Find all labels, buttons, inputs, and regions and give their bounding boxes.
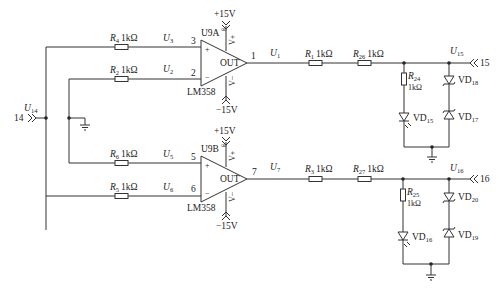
junction-dot bbox=[44, 116, 48, 120]
ground-icon bbox=[80, 125, 90, 130]
minus-sign: − bbox=[205, 73, 210, 82]
zener-vd17-icon bbox=[443, 109, 455, 119]
pin-1-label: 1 bbox=[251, 51, 256, 61]
resistor-r27 bbox=[358, 177, 371, 182]
minus-sign: − bbox=[205, 189, 210, 198]
supply-pos-label: +15V bbox=[214, 9, 236, 19]
part-number: LM358 bbox=[187, 87, 216, 97]
net-label-u14: U14 bbox=[24, 103, 38, 114]
resistor-r27-label: R271kΩ bbox=[352, 164, 384, 175]
resistor-r4 bbox=[115, 45, 128, 50]
resistor-r26 bbox=[358, 61, 371, 66]
opamp-u9a: + − OUT U9A ∞ LM358 +15V V+ −15V V− bbox=[187, 9, 247, 115]
opamp-u9b: + − OUT U9B ∞ LM358 +15V V+ −15V V− bbox=[187, 126, 247, 231]
circuit-schematic: 14 U14 R41kΩ U3 3 R21kΩ U2 2 + − OUT U9A… bbox=[0, 0, 499, 296]
part-number: LM358 bbox=[187, 203, 216, 213]
led-vd15-icon bbox=[399, 113, 411, 128]
resistor-r26-label: R261kΩ bbox=[352, 49, 384, 60]
led-vd16-icon bbox=[398, 232, 410, 247]
output-pin-15-label: 15 bbox=[480, 58, 490, 68]
resistor-r1 bbox=[309, 61, 322, 66]
net-label-u2: U2 bbox=[163, 64, 173, 75]
plus-sign: + bbox=[205, 161, 210, 170]
vminus-label: V− bbox=[228, 191, 237, 202]
resistor-r1-label: R11kΩ bbox=[304, 49, 333, 60]
vplus-label: V+ bbox=[228, 34, 237, 45]
pin-5-label: 5 bbox=[191, 152, 196, 162]
ground-icon bbox=[426, 275, 436, 280]
vminus-label: V− bbox=[228, 75, 237, 86]
output-connector-arrow-icon bbox=[470, 59, 478, 67]
connector-arrow-icon bbox=[28, 114, 36, 122]
pin-2-label: 2 bbox=[191, 68, 196, 78]
resistor-r3 bbox=[309, 177, 322, 182]
opamp-id: U9A bbox=[201, 28, 220, 38]
plus-sign: + bbox=[205, 45, 210, 54]
resistor-r24 bbox=[402, 73, 407, 85]
net-label-u16: U16 bbox=[450, 163, 464, 174]
resistor-r24-value: 1kΩ bbox=[408, 83, 422, 92]
net-label-u3: U3 bbox=[163, 33, 173, 44]
resistor-r25-value: 1kΩ bbox=[407, 199, 421, 208]
resistor-r25-label: R25 bbox=[406, 187, 419, 198]
net-label-u5: U5 bbox=[163, 149, 173, 160]
pin-7-label: 7 bbox=[252, 167, 257, 177]
resistor-r2-label: R21kΩ bbox=[109, 65, 138, 76]
supply-neg-label: −15V bbox=[216, 221, 238, 231]
ground-icon bbox=[427, 157, 437, 162]
net-label-u7: U7 bbox=[270, 162, 281, 173]
net-label-u1: U1 bbox=[270, 48, 280, 59]
output-pin-16-label: 16 bbox=[480, 174, 490, 184]
net-label-u6: U6 bbox=[163, 182, 174, 193]
input-connector-14: 14 U14 bbox=[14, 103, 38, 123]
out-label: OUT bbox=[220, 58, 240, 68]
resistor-r4-label: R41kΩ bbox=[109, 33, 138, 44]
resistor-r6 bbox=[115, 161, 128, 166]
resistor-r5-label: R51kΩ bbox=[109, 182, 138, 193]
resistor-r24-label: R24 bbox=[407, 71, 421, 82]
pin-3-label: 3 bbox=[191, 36, 196, 46]
supply-pos-label: +15V bbox=[214, 126, 236, 136]
resistor-r2 bbox=[115, 77, 128, 82]
led-vd16-label: VD16 bbox=[412, 232, 433, 243]
zener-vd17-label: VD17 bbox=[458, 112, 479, 123]
zener-vd19-icon bbox=[443, 227, 455, 237]
output-connector-arrow-icon bbox=[470, 175, 478, 183]
vplus-label: V+ bbox=[228, 150, 237, 161]
zener-vd18-label: VD18 bbox=[458, 75, 478, 86]
input-pin-label: 14 bbox=[14, 113, 24, 123]
opamp-id: U9B bbox=[201, 144, 219, 154]
net-label-u15: U15 bbox=[450, 46, 463, 57]
out-label: OUT bbox=[220, 174, 240, 184]
resistor-r3-label: R31kΩ bbox=[304, 164, 333, 175]
resistor-r25 bbox=[401, 189, 406, 201]
resistor-r5 bbox=[115, 194, 128, 199]
pin-6-label: 6 bbox=[191, 184, 196, 194]
led-vd15-label: VD15 bbox=[413, 113, 433, 124]
resistor-r6-label: R61kΩ bbox=[109, 149, 138, 160]
supply-neg-label: −15V bbox=[216, 105, 238, 115]
zener-vd19-label: VD19 bbox=[458, 230, 478, 241]
zener-vd20-label: VD20 bbox=[458, 192, 478, 203]
